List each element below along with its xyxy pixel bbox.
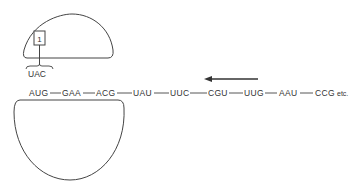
codon-2: GAA [62,88,81,98]
arrow-left-icon [204,76,212,82]
diagram-canvas: 1 UAC AUG GAA ACG UAU UUC CGU UUG AAU CC… [0,0,359,190]
codon-5: UUC [170,88,189,98]
trna-number: 1 [37,35,42,44]
etc-label: etc. [337,90,348,97]
codon-9: CCG [315,88,335,98]
mrna-strand: AUG GAA ACG UAU UUC CGU UUG AAU CCG etc. [29,88,348,98]
codon-8: AAU [279,88,297,98]
codon-6: CGU [208,88,228,98]
anticodon-label: UAC [28,69,46,79]
ribosome-small-subunit [14,100,124,180]
codon-4: UAU [133,88,152,98]
codon-3: ACG [96,88,115,98]
codon-7: UUG [244,88,264,98]
codon-1: AUG [29,88,48,98]
